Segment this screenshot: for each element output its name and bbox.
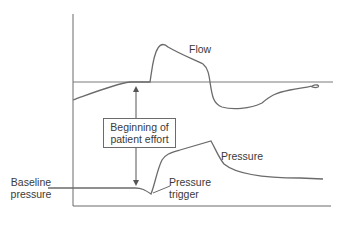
beginning-of-patient-effort-box: Beginning of patient effort (103, 118, 176, 148)
effort-box-line2: patient effort (107, 133, 172, 145)
pressure-trigger-label: Pressure trigger (169, 176, 211, 200)
pressure-trigger-leader (153, 186, 170, 193)
pressure-label: Pressure (221, 150, 263, 162)
effort-box-line1: Beginning of (107, 121, 172, 133)
baseline-line1: Baseline (8, 176, 54, 188)
trigger-line2: trigger (169, 188, 211, 200)
baseline-pressure-label: Baseline pressure (8, 176, 54, 200)
baseline-line2: pressure (8, 188, 54, 200)
flow-label: Flow (189, 43, 211, 55)
trigger-line1: Pressure (169, 176, 211, 188)
